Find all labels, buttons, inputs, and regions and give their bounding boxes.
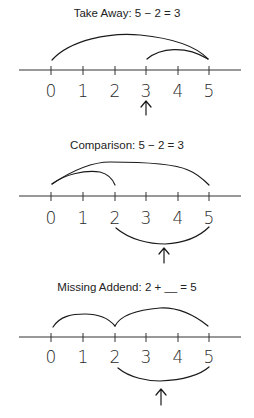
svg-text:4: 4 [173, 347, 184, 367]
svg-text:2: 2 [110, 208, 121, 228]
svg-text:5: 5 [204, 208, 215, 228]
arc-2-to-5 [115, 308, 208, 326]
arrow-up-icon [156, 389, 166, 405]
svg-text:0: 0 [46, 81, 57, 101]
svg-text:1: 1 [78, 347, 89, 367]
comparison-number-line: 0 1 2 3 4 5 [0, 130, 254, 270]
arc-0-to-2 [53, 314, 115, 327]
arrow-up-icon [159, 248, 169, 263]
arc-0-to-2 [52, 172, 115, 186]
arrow-up-icon [141, 101, 151, 115]
missing-addend-diagram: Missing Addend: 2 + __ = 5 0 1 2 3 4 5 [0, 270, 254, 418]
svg-text:0: 0 [46, 347, 57, 367]
svg-text:4: 4 [173, 81, 184, 101]
svg-text:3: 3 [141, 347, 152, 367]
svg-text:4: 4 [173, 208, 184, 228]
svg-text:5: 5 [204, 81, 215, 101]
svg-text:2: 2 [110, 81, 121, 101]
arc-below-2-to-5 [118, 367, 209, 381]
arc-0-to-5 [52, 34, 208, 60]
take-away-diagram: Take Away: 5 − 2 = 3 0 1 2 3 4 5 [0, 0, 254, 130]
svg-text:2: 2 [110, 347, 121, 367]
svg-text:1: 1 [78, 208, 89, 228]
svg-text:3: 3 [141, 81, 152, 101]
svg-text:3: 3 [141, 208, 152, 228]
svg-text:5: 5 [204, 347, 215, 367]
missing-addend-number-line: 0 1 2 3 4 5 [0, 270, 254, 418]
comparison-diagram: Comparison: 5 − 2 = 3 0 1 2 3 4 5 [0, 130, 254, 270]
arc-below-2-to-5 [116, 227, 209, 244]
svg-text:0: 0 [46, 208, 57, 228]
svg-text:1: 1 [78, 81, 89, 101]
take-away-number-line: 0 1 2 3 4 5 [0, 0, 254, 130]
